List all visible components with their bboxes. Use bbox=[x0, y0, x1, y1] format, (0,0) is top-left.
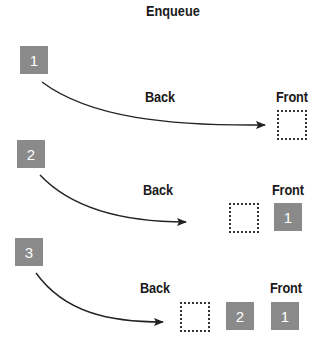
empty-slot-2 bbox=[229, 203, 259, 233]
empty-slot-1 bbox=[277, 110, 307, 140]
incoming-item-1: 1 bbox=[20, 46, 48, 74]
back-label-2: Back bbox=[143, 181, 173, 198]
front-label-3: Front bbox=[270, 279, 302, 296]
incoming-item-3: 3 bbox=[15, 238, 43, 266]
front-label-2: Front bbox=[272, 181, 304, 198]
back-label-3: Back bbox=[140, 279, 170, 296]
queue-item-3-front: 1 bbox=[271, 302, 299, 330]
front-label-1: Front bbox=[276, 88, 308, 105]
incoming-item-2: 2 bbox=[17, 140, 45, 168]
queue-item-2-front: 1 bbox=[274, 203, 302, 231]
queue-item-3-back: 2 bbox=[226, 302, 254, 330]
back-label-1: Back bbox=[145, 88, 175, 105]
empty-slot-3 bbox=[180, 302, 210, 332]
